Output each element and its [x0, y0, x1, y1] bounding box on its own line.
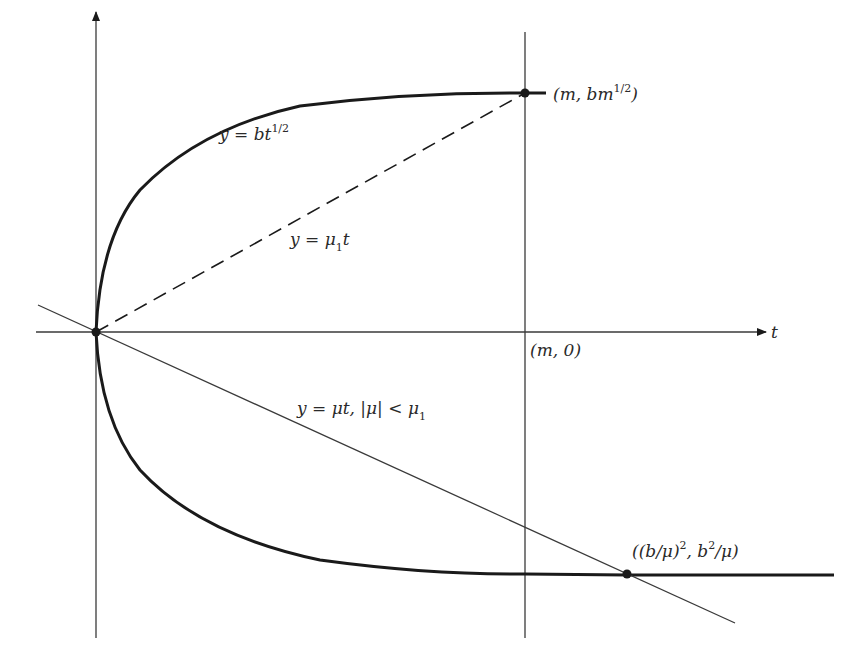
intersection-point-label: ((b/μ)2, b2/μ) [632, 539, 739, 561]
solid-line-label: y = μt, |μ| < μ1 [296, 398, 426, 423]
upper-curve-label: y = bt1/2 [218, 122, 289, 144]
origin-point [92, 328, 101, 337]
parabola-diagram: t y = bt1/2 y = μ1t (m, bm1/2) (m, 0) y … [0, 0, 862, 669]
upper-curve-sqrt [96, 93, 546, 332]
dashed-line-mu1 [96, 93, 525, 332]
point-top-label: (m, bm1/2) [553, 82, 638, 104]
dashed-line-label: y = μ1t [289, 229, 350, 254]
t-axis-label: t [771, 322, 778, 342]
point-intersection [623, 570, 632, 579]
point-m-bm-half [521, 89, 530, 98]
lower-curve [96, 332, 834, 575]
point-axis-label: (m, 0) [530, 340, 581, 360]
